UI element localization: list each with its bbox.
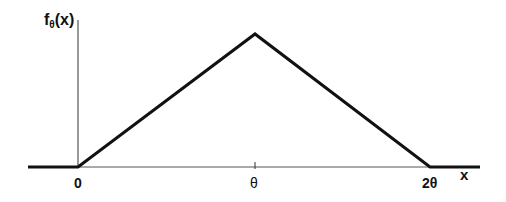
density-curve	[28, 34, 480, 167]
tick-label-2theta: 2θ	[422, 175, 437, 191]
y-axis-label: fθ(x)	[44, 11, 74, 30]
tick-label-theta: θ	[250, 175, 258, 191]
triangular-density-chart: fθ(x) 0 θ 2θ x	[0, 0, 506, 202]
x-axis-label: x	[460, 166, 469, 183]
tick-label-0: 0	[74, 175, 82, 191]
